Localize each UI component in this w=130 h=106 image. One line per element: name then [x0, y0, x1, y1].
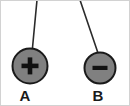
minus-sign-horizontal-bar [93, 66, 108, 70]
minus-sign-icon [93, 66, 108, 70]
electrostatics-diagram: A B [0, 0, 130, 106]
sphere-a-group [13, 49, 48, 84]
plus-sign-vertical-bar [28, 57, 33, 74]
diagram-canvas: A B [0, 0, 130, 106]
sphere-b-label: B [93, 87, 104, 104]
sphere-b-group [85, 53, 116, 84]
sphere-a-label: A [20, 87, 31, 104]
